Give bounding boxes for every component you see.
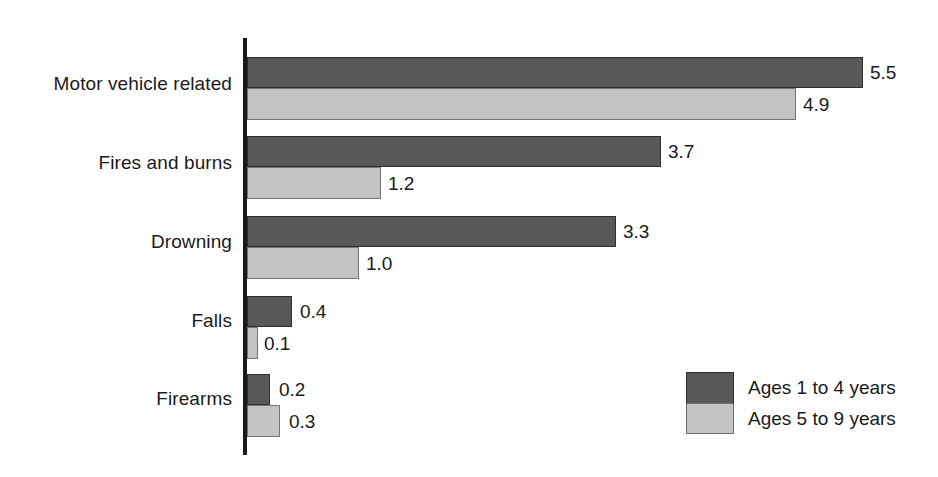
- value-label-fires-and-burns-ages-1-to-4: 3.7: [668, 141, 694, 163]
- bar-motor-vehicle-related-ages-1-to-4: [247, 57, 863, 88]
- value-label-firearms-ages-1-to-4: 0.2: [279, 379, 305, 401]
- value-label-drowning-ages-1-to-4: 3.3: [623, 221, 649, 243]
- value-label-motor-vehicle-related-ages-5-to-9: 4.9: [803, 94, 829, 116]
- legend: Ages 1 to 4 years Ages 5 to 9 years: [686, 372, 896, 434]
- bar-motor-vehicle-related-ages-5-to-9: [247, 88, 796, 120]
- value-label-firearms-ages-5-to-9: 0.3: [289, 411, 315, 433]
- legend-item-ages-5-to-9: Ages 5 to 9 years: [686, 403, 896, 434]
- legend-item-ages-1-to-4: Ages 1 to 4 years: [686, 372, 896, 403]
- bar-drowning-ages-1-to-4: [247, 216, 616, 247]
- category-label-motor-vehicle-related: Motor vehicle related: [54, 73, 232, 95]
- category-label-fires-and-burns: Fires and burns: [98, 152, 232, 174]
- bar-chart: Motor vehicle related Fires and burns Dr…: [0, 0, 938, 477]
- category-label-drowning: Drowning: [151, 231, 232, 253]
- bar-firearms-ages-1-to-4: [247, 374, 270, 405]
- value-label-fires-and-burns-ages-5-to-9: 1.2: [388, 173, 414, 195]
- bar-fires-and-burns-ages-1-to-4: [247, 136, 661, 167]
- category-label-falls: Falls: [191, 310, 232, 332]
- value-label-drowning-ages-5-to-9: 1.0: [366, 253, 392, 275]
- bar-firearms-ages-5-to-9: [247, 405, 280, 437]
- legend-swatch-ages-5-to-9: [686, 403, 734, 434]
- legend-label-ages-1-to-4: Ages 1 to 4 years: [748, 377, 896, 399]
- legend-label-ages-5-to-9: Ages 5 to 9 years: [748, 408, 896, 430]
- value-label-falls-ages-5-to-9: 0.1: [264, 333, 290, 355]
- bar-drowning-ages-5-to-9: [247, 247, 359, 279]
- category-label-firearms: Firearms: [156, 388, 232, 410]
- value-label-falls-ages-1-to-4: 0.4: [300, 301, 326, 323]
- bar-falls-ages-5-to-9: [247, 327, 258, 359]
- value-label-motor-vehicle-related-ages-1-to-4: 5.5: [870, 62, 896, 84]
- bar-falls-ages-1-to-4: [247, 296, 292, 327]
- bar-fires-and-burns-ages-5-to-9: [247, 167, 381, 199]
- legend-swatch-ages-1-to-4: [686, 372, 734, 403]
